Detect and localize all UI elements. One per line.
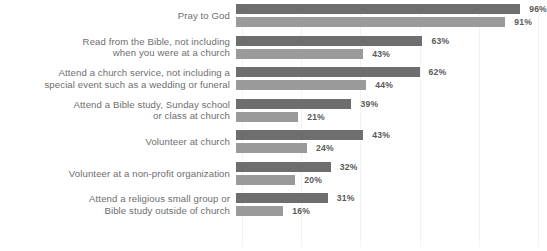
bar-series_2 bbox=[236, 17, 505, 27]
bar-series_1 bbox=[236, 4, 520, 14]
bar-item: 39% bbox=[236, 99, 378, 109]
bar-value-label: 39% bbox=[360, 99, 378, 109]
bar-item: 31% bbox=[236, 193, 355, 203]
bar-series_2 bbox=[236, 80, 366, 90]
bar-group: 96%91% bbox=[236, 0, 547, 32]
category-label: Attend a Bible study, Sunday school or c… bbox=[0, 99, 236, 122]
chart-row: Pray to God96%91% bbox=[0, 0, 547, 32]
bar-item: 20% bbox=[236, 175, 322, 185]
chart-row: Volunteer at a non-profit organization32… bbox=[0, 158, 547, 190]
bar-value-label: 43% bbox=[372, 49, 390, 59]
bar-item: 24% bbox=[236, 143, 334, 153]
bar-series_1 bbox=[236, 162, 331, 172]
bar-chart: Pray to God96%91%Read from the Bible, no… bbox=[0, 0, 547, 251]
bar-value-label: 91% bbox=[514, 17, 532, 27]
bar-group: 39%21% bbox=[236, 95, 547, 127]
bar-group: 32%20% bbox=[236, 158, 547, 190]
bar-value-label: 24% bbox=[316, 143, 334, 153]
chart-row: Volunteer at church43%24% bbox=[0, 126, 547, 158]
category-label: Pray to God bbox=[0, 10, 236, 21]
bar-value-label: 20% bbox=[304, 175, 322, 185]
bar-item: 32% bbox=[236, 162, 358, 172]
chart-rows: Pray to God96%91%Read from the Bible, no… bbox=[0, 0, 547, 221]
bar-series_2 bbox=[236, 143, 307, 153]
chart-row: Attend a Bible study, Sunday school or c… bbox=[0, 95, 547, 127]
bar-item: 16% bbox=[236, 206, 310, 216]
bar-series_1 bbox=[236, 130, 363, 140]
category-label: Volunteer at church bbox=[0, 136, 236, 147]
bar-value-label: 96% bbox=[529, 4, 547, 14]
bar-value-label: 31% bbox=[337, 193, 355, 203]
category-label: Read from the Bible, not including when … bbox=[0, 36, 236, 59]
bar-item: 43% bbox=[236, 49, 390, 59]
bar-item: 62% bbox=[236, 67, 446, 77]
bar-group: 43%24% bbox=[236, 126, 547, 158]
chart-row: Attend a religious small group or Bible … bbox=[0, 189, 547, 221]
bar-item: 96% bbox=[236, 4, 547, 14]
category-label: Attend a religious small group or Bible … bbox=[0, 193, 236, 216]
bar-value-label: 21% bbox=[307, 112, 325, 122]
chart-row: Read from the Bible, not including when … bbox=[0, 32, 547, 64]
bar-item: 44% bbox=[236, 80, 393, 90]
chart-row: Attend a church service, not including a… bbox=[0, 63, 547, 95]
bar-series_1 bbox=[236, 36, 422, 46]
bar-item: 63% bbox=[236, 36, 449, 46]
bar-item: 91% bbox=[236, 17, 532, 27]
bar-series_2 bbox=[236, 206, 283, 216]
bar-value-label: 44% bbox=[375, 80, 393, 90]
bar-value-label: 16% bbox=[292, 206, 310, 216]
bar-series_2 bbox=[236, 112, 298, 122]
category-label: Attend a church service, not including a… bbox=[0, 67, 236, 90]
bar-item: 43% bbox=[236, 130, 390, 140]
plot-area: Pray to God96%91%Read from the Bible, no… bbox=[0, 0, 547, 251]
bar-group: 31%16% bbox=[236, 189, 547, 221]
bar-group: 62%44% bbox=[236, 63, 547, 95]
bar-series_2 bbox=[236, 49, 363, 59]
bar-value-label: 32% bbox=[340, 162, 358, 172]
bar-series_1 bbox=[236, 99, 351, 109]
bar-value-label: 43% bbox=[372, 130, 390, 140]
bar-series_1 bbox=[236, 193, 328, 203]
bar-value-label: 63% bbox=[431, 36, 449, 46]
bar-group: 63%43% bbox=[236, 32, 547, 64]
bar-series_2 bbox=[236, 175, 295, 185]
bar-value-label: 62% bbox=[429, 67, 447, 77]
bar-series_1 bbox=[236, 67, 420, 77]
category-label: Volunteer at a non-profit organization bbox=[0, 168, 236, 179]
bar-item: 21% bbox=[236, 112, 325, 122]
